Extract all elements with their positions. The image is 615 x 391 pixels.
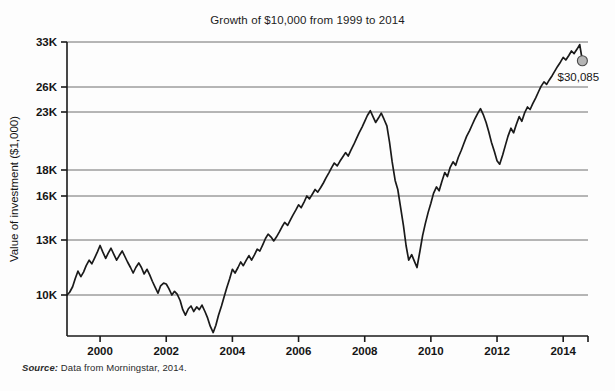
- source-note: Source: Data from Morningstar, 2014.: [22, 362, 187, 373]
- y-tick-label: 16K: [36, 190, 58, 202]
- source-text: Data from Morningstar, 2014.: [61, 362, 187, 373]
- y-tick-label: 10K: [36, 289, 58, 301]
- x-tick-label: 2000: [87, 345, 113, 357]
- chart-axes: [67, 42, 588, 336]
- y-tick-label: 33K: [36, 36, 58, 48]
- x-tick-label: 2010: [418, 345, 444, 357]
- y-axis-ticks: 10K13K16K18K23K26K33K: [36, 36, 67, 301]
- x-tick-label: 2012: [484, 345, 510, 357]
- y-tick-label: 23K: [36, 106, 58, 118]
- investment-growth-line: [67, 45, 582, 333]
- end-point-marker: [577, 56, 587, 66]
- y-tick-label: 26K: [36, 81, 58, 93]
- x-tick-label: 2004: [220, 345, 246, 357]
- source-label: Source:: [22, 362, 58, 373]
- x-tick-label: 2008: [352, 345, 378, 357]
- x-tick-label: 2002: [153, 345, 179, 357]
- y-tick-label: 18K: [36, 164, 58, 176]
- x-tick-label: 2014: [550, 345, 576, 357]
- chart-figure: Growth of $10,000 from 1999 to 2014 10K1…: [0, 0, 615, 391]
- y-gridlines: [67, 42, 588, 295]
- chart-plot-area: 10K13K16K18K23K26K33K 200020022004200620…: [0, 0, 615, 391]
- end-value-annotation: $30,085: [558, 71, 600, 83]
- y-axis-title: Value of investment ($1,000): [8, 116, 20, 262]
- x-tick-label: 2006: [286, 345, 312, 357]
- x-axis-ticks: 20002002200420062008201020122014: [87, 336, 588, 357]
- y-tick-label: 13K: [36, 234, 58, 246]
